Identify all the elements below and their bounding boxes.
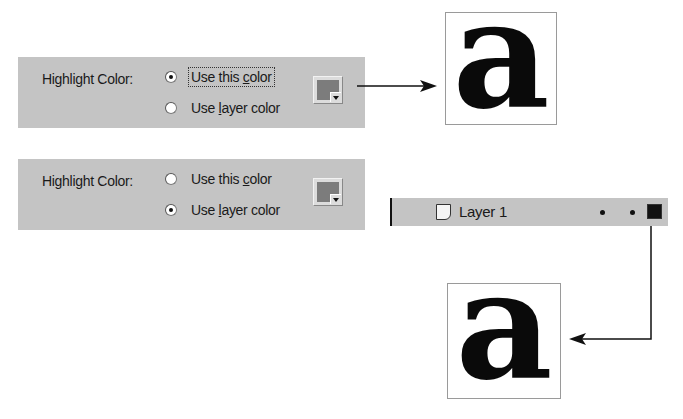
callout-arrows	[0, 0, 683, 419]
arrow-swatch-to-sample	[357, 80, 437, 92]
arrow-layer-to-sample	[569, 226, 651, 345]
